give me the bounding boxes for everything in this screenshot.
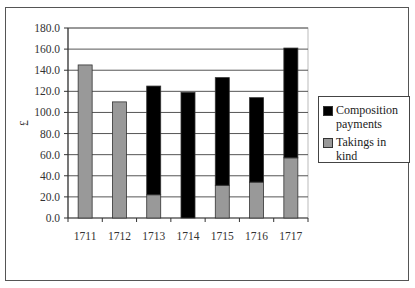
bar-segment	[250, 182, 264, 218]
takings-swatch-icon	[323, 138, 333, 148]
bar-segment	[250, 98, 264, 182]
y-axis-label: £	[18, 120, 30, 126]
legend-label: Composition payments	[336, 103, 409, 131]
y-tick-label: 100.0	[34, 106, 60, 118]
bar-segment	[147, 195, 161, 218]
x-tick-label: 1713	[142, 230, 165, 242]
bar-segment	[284, 48, 298, 158]
bar-segment	[284, 158, 298, 218]
legend-label: Takings in kind	[336, 135, 409, 163]
bar-segment	[215, 185, 229, 218]
y-tick-label: 140.0	[34, 64, 60, 76]
y-tick-label: 80.0	[40, 128, 60, 140]
x-tick-label: 1715	[211, 230, 234, 242]
x-tick-label: 1712	[108, 230, 131, 242]
y-tick-label: 60.0	[40, 149, 60, 161]
bar-segment	[215, 78, 229, 186]
bar-segment	[112, 102, 126, 218]
legend-item-composition: Composition payments	[323, 103, 409, 131]
y-tick-label: 160.0	[34, 43, 60, 55]
legend: Composition payments Takings in kind	[318, 96, 410, 163]
legend-item-takings: Takings in kind	[323, 135, 409, 163]
bar-segment	[181, 92, 195, 218]
x-tick-label: 1711	[74, 230, 97, 242]
bar-segment	[147, 86, 161, 195]
bar-segment	[78, 65, 92, 218]
composition-swatch-icon	[323, 106, 333, 116]
x-tick-label: 1716	[245, 230, 268, 242]
y-tick-label: 120.0	[34, 85, 60, 97]
x-tick-label: 1714	[177, 230, 200, 242]
y-tick-label: 40.0	[40, 170, 60, 182]
y-tick-label: 20.0	[40, 191, 60, 203]
y-tick-label: 180.0	[34, 22, 60, 34]
y-tick-label: 0.0	[46, 212, 61, 224]
x-tick-label: 1717	[279, 230, 302, 242]
